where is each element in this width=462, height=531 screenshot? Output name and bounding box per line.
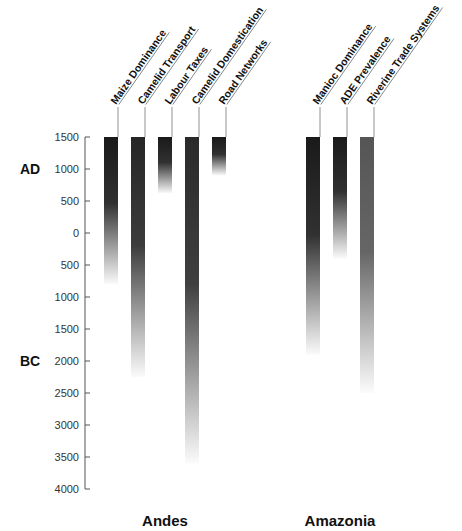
label-underline xyxy=(375,7,443,104)
bar-ade-prevalence xyxy=(333,137,347,259)
group-label-amazonia: Amazonia xyxy=(305,512,377,529)
tick-label: 0 xyxy=(73,227,79,239)
group-label-andes: Andes xyxy=(142,512,188,529)
tick-label: 2500 xyxy=(55,387,79,399)
tick-label: 500 xyxy=(61,259,79,271)
tick-label: 3000 xyxy=(55,419,79,431)
timeline-chart: 1500100050005001000150020002500300035004… xyxy=(0,0,462,531)
era-label-ad: AD xyxy=(20,161,40,177)
y-axis: 1500100050005001000150020002500300035004… xyxy=(55,131,90,495)
era-labels: ADBC xyxy=(20,161,40,369)
tick-label: 1000 xyxy=(55,291,79,303)
bar-camelid-domestication xyxy=(185,137,199,463)
tick-label: 2000 xyxy=(55,355,79,367)
tick-label: 3500 xyxy=(55,451,79,463)
tick-label: 1500 xyxy=(55,323,79,335)
bar-maize-dominance xyxy=(104,137,118,284)
bar-manioc-dominance xyxy=(306,137,320,355)
bar-labour-taxes xyxy=(158,137,172,193)
bars xyxy=(104,137,374,463)
tick-label: 1500 xyxy=(55,131,79,143)
tick-label: 500 xyxy=(61,195,79,207)
category-labels: Maize DominanceCamelid TransportLabour T… xyxy=(108,1,443,137)
tick-label: 4000 xyxy=(55,483,79,495)
category-label-group: Road Networks xyxy=(216,35,271,106)
bar-camelid-transport xyxy=(131,137,145,377)
bar-road-networks xyxy=(212,137,226,175)
category-label: Road Networks xyxy=(216,37,270,107)
bar-riverine-trade-systems xyxy=(360,137,374,393)
tick-label: 1000 xyxy=(55,163,79,175)
group-labels: AndesAmazonia xyxy=(142,512,376,529)
era-label-bc: BC xyxy=(20,353,40,369)
